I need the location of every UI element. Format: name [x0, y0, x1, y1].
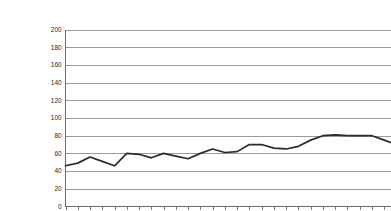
y-tick-label-40: 40 — [54, 167, 62, 174]
chart-canvas: 020406080100120140160180200 197319771981… — [40, 16, 391, 211]
y-tick-label-120: 120 — [51, 97, 62, 104]
line-chart-figure: 020406080100120140160180200 197319771981… — [40, 16, 391, 211]
y-tick-label-80: 80 — [54, 132, 62, 139]
y-tick-label-0: 0 — [58, 203, 62, 210]
y-tick-label-180: 180 — [51, 44, 62, 51]
y-tick-label-100: 100 — [51, 114, 62, 121]
y-tick-label-20: 20 — [54, 185, 62, 192]
y-tick-label-200: 200 — [51, 26, 62, 33]
chart-background — [40, 16, 391, 211]
y-tick-label-160: 160 — [51, 61, 62, 68]
y-tick-label-60: 60 — [54, 150, 62, 157]
y-tick-label-140: 140 — [51, 79, 62, 86]
